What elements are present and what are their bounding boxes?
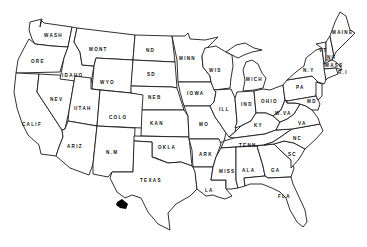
label-kan: KAN <box>150 121 164 126</box>
label-ga: GA <box>271 168 281 173</box>
label-colo: COLO <box>109 115 127 120</box>
label-nc: NC <box>293 136 302 141</box>
label-utah: UTAH <box>74 106 92 111</box>
state-conn[interactable] <box>324 68 338 80</box>
label-vt: VT <box>319 48 327 53</box>
state-wyo[interactable] <box>92 58 133 93</box>
label-nh: NH <box>327 55 336 60</box>
label-neb: NEB <box>148 95 162 100</box>
label-nm: N.M <box>106 150 118 155</box>
us-outline-map: WASH ORE CALIF IDAHO NEV MONT WYO UTAH C… <box>0 0 367 247</box>
label-ri: R.I <box>338 70 348 75</box>
label-wash: WASH <box>44 33 63 38</box>
label-ill: ILL <box>219 107 230 112</box>
label-ky: KY <box>254 123 263 128</box>
label-wis: WIS <box>209 68 222 73</box>
label-mass: MASS <box>325 63 343 68</box>
label-mich: MICH <box>246 77 263 82</box>
label-ore: ORE <box>31 59 45 64</box>
label-minn: MINN <box>179 56 196 61</box>
label-ohio: OHIO <box>261 99 278 104</box>
label-ariz: ARIZ <box>67 144 83 149</box>
label-ind: IND <box>241 102 253 107</box>
label-wyo: WYO <box>100 80 115 85</box>
label-iowa: IOWA <box>187 91 204 96</box>
label-mont: MONT <box>89 47 108 52</box>
label-sd: SD <box>147 72 156 77</box>
state-fla[interactable] <box>244 176 307 227</box>
label-mo: MO <box>199 122 209 127</box>
label-nev: NEV <box>50 97 63 102</box>
label-ala: ALA <box>242 168 255 173</box>
label-okla: OKLA <box>158 145 176 150</box>
label-wva: W.VA <box>275 111 292 116</box>
state-nj[interactable] <box>316 82 322 100</box>
label-idaho: IDAHO <box>62 73 83 78</box>
label-md: MD <box>307 99 317 104</box>
label-va: VA <box>298 121 307 126</box>
label-miss: MISS <box>219 169 235 174</box>
label-calif: CALIF <box>22 122 42 127</box>
state-colo[interactable] <box>97 90 144 128</box>
label-sc: SC <box>288 152 297 157</box>
label-tenn: TENN <box>239 143 257 148</box>
label-fla: FLA <box>278 194 291 199</box>
label-ny: N.Y <box>303 68 315 73</box>
location-marker <box>116 199 128 209</box>
label-texas: TEXAS <box>140 178 162 183</box>
label-la: LA <box>205 188 214 193</box>
state-kan[interactable] <box>141 110 189 137</box>
label-nd: ND <box>146 48 155 53</box>
label-maine: MAINE <box>332 30 353 35</box>
label-pa: PA <box>296 85 305 90</box>
label-ark: ARK <box>199 152 213 157</box>
